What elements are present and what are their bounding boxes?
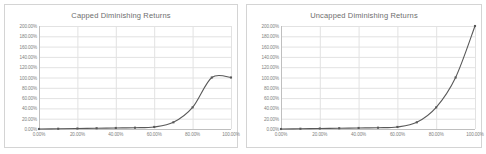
plot-area-uncapped: 0.00%20.00%40.00%60.00%80.00%100.00%120.… <box>247 5 481 147</box>
plot-svg-uncapped <box>247 5 481 147</box>
screenshot-canvas: Capped Diminishing Returns 0.00%20.00%40… <box>0 0 486 154</box>
chart-panel-uncapped[interactable]: Uncapped Diminishing Returns 0.00%20.00%… <box>246 4 482 148</box>
plot-area-capped: 0.00%20.00%40.00%60.00%80.00%100.00%120.… <box>5 5 237 147</box>
chart-panel-capped[interactable]: Capped Diminishing Returns 0.00%20.00%40… <box>4 4 238 148</box>
plot-svg-capped <box>5 5 237 147</box>
